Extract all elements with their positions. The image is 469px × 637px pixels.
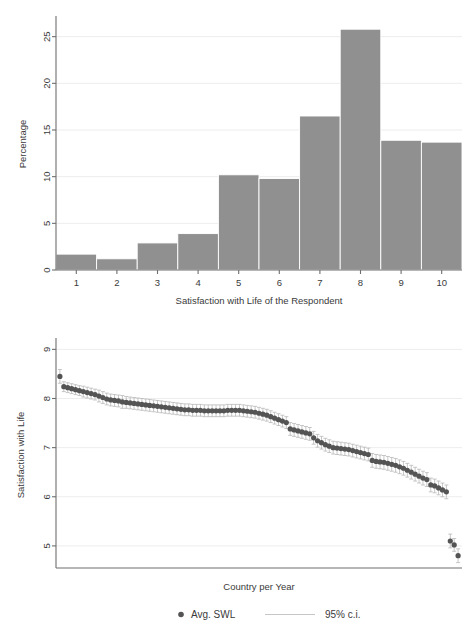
y-tick-label: 6 <box>41 494 52 499</box>
y-tick-label: 8 <box>41 396 52 401</box>
x-tick-label: 3 <box>155 277 160 288</box>
bar-series <box>56 29 462 270</box>
histogram-bar <box>381 140 422 270</box>
y-tick-label: 9 <box>41 347 52 352</box>
y-tick-label: 0 <box>41 267 52 272</box>
x-tick-label: 6 <box>277 277 282 288</box>
x-tick-label: 4 <box>195 277 200 288</box>
histogram-bar <box>178 234 219 270</box>
data-points <box>57 374 460 559</box>
data-point <box>452 542 457 547</box>
x-axis-title: Country per Year <box>223 581 294 592</box>
data-point <box>366 452 371 457</box>
legend: Avg. SWL95% c.i. <box>178 609 360 620</box>
data-point <box>455 553 460 558</box>
histogram-bar <box>300 116 341 270</box>
histogram-bar <box>340 29 381 270</box>
histogram-bar <box>421 142 462 270</box>
y-tick-label: 20 <box>41 78 52 89</box>
data-point <box>307 431 312 436</box>
x-tick-label: 9 <box>398 277 403 288</box>
x-tick-label: 7 <box>317 277 322 288</box>
data-point <box>284 420 289 425</box>
y-axis-title: Satisfaction with Life <box>15 412 26 499</box>
histogram-chart: 051015202512345678910PercentageSatisfact… <box>0 0 469 320</box>
x-tick-label: 1 <box>74 277 79 288</box>
x-axis-title: Satisfaction with Life of the Respondent <box>176 295 343 306</box>
legend-marker-avg-swl <box>178 612 184 618</box>
figure-container: 051015202512345678910PercentageSatisfact… <box>0 0 469 637</box>
y-axis-title: Percentage <box>17 120 28 169</box>
histogram-bar <box>259 179 300 270</box>
x-tick-label: 8 <box>358 277 363 288</box>
x-tick-label: 10 <box>436 277 447 288</box>
y-tick-label: 10 <box>41 171 52 182</box>
x-tick-label: 5 <box>236 277 241 288</box>
data-point <box>448 538 453 543</box>
data-point <box>57 374 62 379</box>
histogram-bar <box>218 175 259 270</box>
y-tick-label: 25 <box>41 31 52 42</box>
legend-label-ci: 95% c.i. <box>325 609 361 620</box>
y-tick-label: 5 <box>41 543 52 548</box>
y-tick-label: 15 <box>41 125 52 136</box>
y-tick-label: 5 <box>41 221 52 226</box>
x-tick-label: 2 <box>114 277 119 288</box>
data-point <box>444 489 449 494</box>
histogram-bar <box>97 259 138 270</box>
y-tick-label: 7 <box>41 445 52 450</box>
histogram-bar <box>137 243 178 270</box>
scatter-chart: 56789Satisfaction with LifeCountry per Y… <box>0 320 469 637</box>
gridlines <box>56 349 462 546</box>
histogram-bar <box>56 254 97 270</box>
axes: 56789 <box>41 338 462 568</box>
legend-label-avg-swl: Avg. SWL <box>191 609 236 620</box>
data-point <box>424 477 429 482</box>
